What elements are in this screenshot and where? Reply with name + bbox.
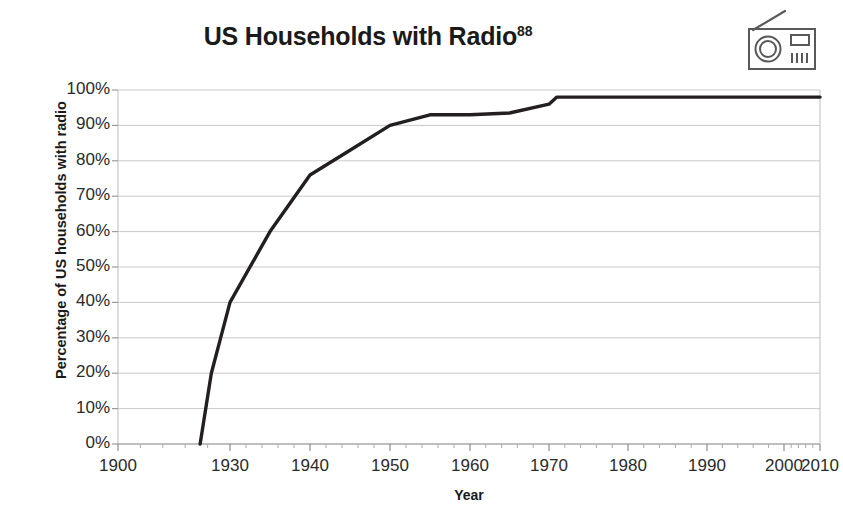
x-tick-label: 1900 [78, 456, 158, 476]
y-tick-label: 10% [40, 398, 110, 418]
y-tick-label: 60% [40, 221, 110, 241]
y-tick-label: 80% [40, 150, 110, 170]
y-tick-label: 90% [40, 114, 110, 134]
series-line-0 [200, 97, 820, 444]
data-series-group [200, 97, 820, 444]
x-tick-label: 1970 [509, 456, 589, 476]
x-tick-label: 2010 [780, 456, 843, 476]
y-tick-label: 70% [40, 185, 110, 205]
x-tick-label: 1930 [190, 456, 270, 476]
y-tick-label: 40% [40, 291, 110, 311]
y-tick-label: 100% [40, 79, 110, 99]
x-tick-label: 1950 [350, 456, 430, 476]
x-tick-label: 1960 [430, 456, 510, 476]
x-tick-label: 1940 [270, 456, 350, 476]
plot-area [0, 0, 843, 520]
x-tick-label: 1990 [667, 456, 747, 476]
y-tick-label: 20% [40, 362, 110, 382]
y-tick-label: 30% [40, 327, 110, 347]
y-tick-label: 50% [40, 256, 110, 276]
chart-figure: US Households with Radio88 Percentage of… [0, 0, 843, 520]
y-axis-ticks [112, 90, 118, 444]
gridlines [118, 90, 820, 444]
x-axis-ticks [118, 444, 820, 451]
y-tick-label: 0% [40, 433, 110, 453]
x-tick-label: 1980 [588, 456, 668, 476]
